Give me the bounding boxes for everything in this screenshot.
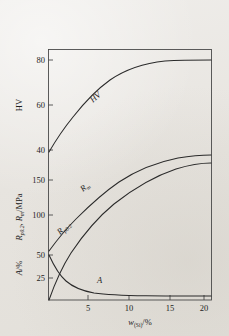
svg-text:Rm: Rm — [77, 180, 92, 195]
chart-svg: 80 60 40 150 100 50 25 HV Rp0.2, Rm/MPa … — [0, 0, 229, 336]
y-title-rp-sub: p0.2 — [19, 225, 25, 236]
curve-rm — [49, 155, 211, 251]
curve-a — [49, 255, 211, 296]
tick-label-x-10: 10 — [125, 303, 134, 313]
svg-text:Rp0.2, Rm/MPa: Rp0.2, Rm/MPa — [14, 193, 25, 241]
y-axis-title-strength: Rp0.2, Rm/MPa — [14, 193, 25, 241]
tick-label-r-100: 100 — [32, 210, 45, 220]
tick-label-hv-60: 60 — [37, 100, 46, 110]
curve-label-rm: Rm — [77, 180, 92, 195]
y-axis-ticks — [49, 60, 54, 278]
y-axis-title-elongation: A/% — [14, 261, 24, 277]
curve-label-rp02: Rp0.2 — [54, 219, 73, 238]
x-axis-title: w(Si)/% — [128, 317, 152, 329]
tick-label-a-25: 25 — [37, 273, 46, 283]
curve-rp02 — [49, 163, 211, 300]
tick-label-x-20: 20 — [200, 303, 209, 313]
tick-label-hv-40: 40 — [37, 145, 46, 155]
y-title-unit: /MPa — [14, 193, 24, 212]
tick-label-hv-80: 80 — [37, 55, 46, 65]
tick-label-r-150: 150 — [32, 175, 45, 185]
tick-label-r-50: 50 — [37, 250, 46, 260]
x-title-sub: (Si) — [134, 322, 143, 329]
svg-text:A/%: A/% — [14, 261, 24, 277]
y-title-a-unit: /% — [14, 261, 24, 270]
x-title-unit: /% — [142, 317, 151, 327]
curve-label-a: A — [96, 275, 103, 285]
figure-container: 80 60 40 150 100 50 25 HV Rp0.2, Rm/MPa … — [0, 0, 229, 336]
tick-label-x-5: 5 — [86, 303, 90, 313]
svg-text:Rp0.2: Rp0.2 — [54, 219, 73, 238]
y-axis-title-hv: HV — [14, 98, 24, 111]
tick-label-x-15: 15 — [166, 303, 175, 313]
curve-label-hv: HV — [87, 88, 104, 105]
curve-hv — [49, 60, 211, 152]
